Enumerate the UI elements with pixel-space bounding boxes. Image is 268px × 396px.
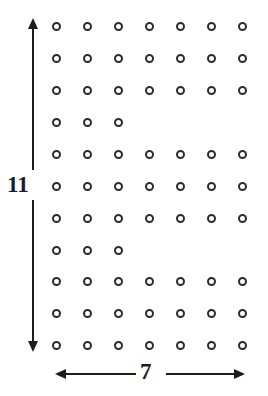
grid-dot xyxy=(238,22,247,31)
grid-dot xyxy=(83,54,92,63)
grid-dot xyxy=(207,54,216,63)
grid-dot xyxy=(114,309,123,318)
grid-dot xyxy=(52,86,61,95)
grid-dot xyxy=(114,182,123,191)
dot-grid-figure: 11 7 xyxy=(0,0,268,396)
grid-dot xyxy=(52,341,61,350)
grid-dot xyxy=(114,54,123,63)
horizontal-arrow-right-head xyxy=(234,369,245,379)
horizontal-dimension-line-right xyxy=(166,373,235,375)
grid-dot xyxy=(207,182,216,191)
vertical-dimension-label: 11 xyxy=(7,173,29,196)
grid-dot xyxy=(83,214,92,223)
grid-dot xyxy=(207,277,216,286)
grid-dot xyxy=(83,246,92,255)
grid-dot xyxy=(176,150,185,159)
grid-dot xyxy=(238,54,247,63)
grid-dot xyxy=(114,22,123,31)
grid-dot xyxy=(145,182,154,191)
grid-dot xyxy=(114,277,123,286)
grid-dot xyxy=(52,309,61,318)
grid-dot xyxy=(145,150,154,159)
grid-dot xyxy=(114,150,123,159)
grid-dot xyxy=(83,182,92,191)
grid-dot xyxy=(238,214,247,223)
grid-dot xyxy=(207,86,216,95)
grid-dot xyxy=(52,182,61,191)
grid-dot xyxy=(145,341,154,350)
grid-dot xyxy=(207,214,216,223)
grid-dot xyxy=(176,182,185,191)
vertical-dimension-line-upper xyxy=(32,28,34,170)
grid-dot xyxy=(52,214,61,223)
grid-dot xyxy=(145,22,154,31)
grid-dot xyxy=(83,341,92,350)
grid-dot xyxy=(176,277,185,286)
grid-dot xyxy=(145,54,154,63)
grid-dot xyxy=(114,246,123,255)
grid-dot xyxy=(207,22,216,31)
grid-dot xyxy=(52,22,61,31)
grid-dot xyxy=(238,341,247,350)
grid-dot xyxy=(52,277,61,286)
grid-dot xyxy=(238,150,247,159)
grid-dot xyxy=(114,118,123,127)
grid-dot xyxy=(52,118,61,127)
vertical-arrow-down-head xyxy=(28,341,38,352)
grid-dot xyxy=(52,150,61,159)
grid-dot xyxy=(83,150,92,159)
grid-dot xyxy=(176,214,185,223)
grid-dot xyxy=(83,118,92,127)
grid-dot xyxy=(83,309,92,318)
grid-dot xyxy=(238,277,247,286)
grid-dot xyxy=(83,86,92,95)
grid-dot xyxy=(238,86,247,95)
grid-dot xyxy=(145,86,154,95)
grid-dot xyxy=(207,309,216,318)
grid-dot xyxy=(176,309,185,318)
grid-dot xyxy=(176,86,185,95)
horizontal-dimension-line-left xyxy=(65,373,136,375)
grid-dot xyxy=(145,214,154,223)
grid-dot xyxy=(176,22,185,31)
grid-dot xyxy=(176,341,185,350)
grid-dot xyxy=(52,246,61,255)
grid-dot xyxy=(83,277,92,286)
vertical-dimension-line-lower xyxy=(32,200,34,342)
horizontal-dimension-label: 7 xyxy=(140,360,152,383)
grid-dot xyxy=(207,341,216,350)
grid-dot xyxy=(207,150,216,159)
grid-dot xyxy=(176,54,185,63)
grid-dot xyxy=(238,309,247,318)
grid-dot xyxy=(52,54,61,63)
grid-dot xyxy=(83,22,92,31)
grid-dot xyxy=(238,182,247,191)
grid-dot xyxy=(114,214,123,223)
grid-dot xyxy=(114,341,123,350)
grid-dot xyxy=(145,309,154,318)
grid-dot xyxy=(114,86,123,95)
dot-grid xyxy=(0,0,268,396)
grid-dot xyxy=(145,277,154,286)
